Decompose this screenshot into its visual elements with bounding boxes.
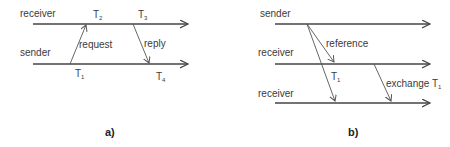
request-label: request: [79, 39, 113, 50]
reply-label: reply: [144, 38, 166, 49]
diagram-canvas: receiver sender request reply T2 T3 T1 T…: [0, 0, 450, 147]
timeline-label-sender: sender: [260, 8, 291, 19]
timeline-label-receiver: receiver: [20, 8, 56, 19]
panel-a: receiver sender request reply T2 T3 T1 T…: [20, 8, 188, 138]
timeline-label-receiver-1: receiver: [258, 47, 294, 58]
caption-b: b): [348, 126, 359, 138]
timestamp-t4: T4: [156, 71, 166, 83]
timeline-label-sender: sender: [20, 47, 51, 58]
timeline-label-receiver-2: receiver: [258, 88, 294, 99]
panel-b: sender receiver receiver reference T1 ex…: [258, 8, 442, 138]
timestamp-t1: T1: [75, 68, 85, 80]
timestamp-t2: T2: [93, 9, 103, 21]
timestamp-t3: T3: [138, 9, 148, 21]
t1-label: T1: [331, 71, 341, 83]
caption-a: a): [105, 126, 115, 138]
exchange-label: exchange T1: [386, 78, 442, 90]
t1-arrow: [307, 24, 335, 101]
reference-label: reference: [326, 38, 369, 49]
